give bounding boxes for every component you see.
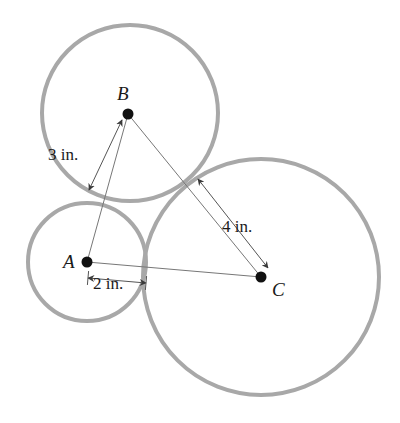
vertex-dot-a <box>82 257 93 268</box>
vertex-label-b: B <box>117 83 129 104</box>
dimension-4-in-label: 4 in. <box>222 217 252 236</box>
vertex-label-a: A <box>61 251 75 272</box>
dimension-2-in-label: 2 in. <box>93 274 123 293</box>
dimension-3-in-label: 3 in. <box>48 145 78 164</box>
vertex-dot-c <box>256 272 267 283</box>
vertex-dot-b <box>123 109 134 120</box>
circles-geometry-figure: 3 in. 4 in. 2 in. A B C <box>0 0 400 423</box>
vertex-label-c: C <box>272 279 285 300</box>
